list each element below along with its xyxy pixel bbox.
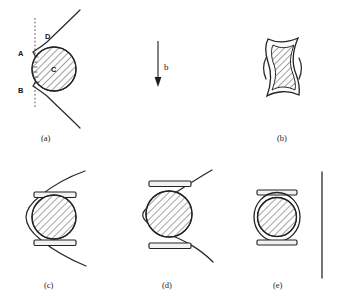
panel-c: (c): [26, 171, 86, 290]
panel-d-sphere-hatching: [146, 191, 192, 237]
panel-a-marker-a: A: [18, 49, 24, 58]
panel-b-right-edge-line: [299, 58, 301, 79]
panel-d: (d): [143, 170, 213, 290]
panel-b-caption: (b): [277, 133, 287, 143]
panel-a-marker-c: C: [51, 65, 57, 74]
panel-b-left-edge-line: [264, 58, 266, 79]
panel-a: A B C D (a): [18, 10, 80, 143]
panel-c-caption: (c): [44, 280, 54, 290]
panel-d-caption: (d): [162, 280, 172, 290]
panel-d-lower-plate: [149, 243, 191, 249]
panel-a-marker-b: B: [18, 86, 24, 95]
figure-root: A B C D (a) b (b): [0, 0, 338, 299]
panel-e-sphere-hatching: [258, 198, 297, 237]
panel-b: (b): [264, 38, 302, 143]
panel-c-sphere-hatching: [32, 195, 76, 239]
panel-d-upper-plate: [149, 181, 191, 187]
vector-arrow-b: b: [155, 41, 169, 87]
panel-e-caption: (e): [273, 280, 283, 290]
panel-a-marker-d: D: [45, 32, 51, 41]
vector-label-b: b: [164, 62, 169, 72]
panel-c-lower-plate: [34, 240, 76, 246]
panel-e: (e): [254, 172, 322, 290]
vector-arrow-head: [155, 77, 162, 87]
panel-e-lower-plate: [257, 240, 297, 245]
figure-canvas: A B C D (a) b (b): [0, 0, 338, 299]
panel-a-caption: (a): [41, 133, 51, 143]
